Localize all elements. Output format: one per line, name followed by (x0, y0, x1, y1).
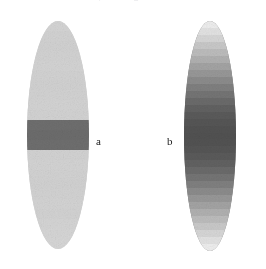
intensity-band (27, 21, 89, 31)
intensity-band (184, 77, 236, 84)
figure-root: of the modulated beam, showing the trans… (0, 0, 266, 269)
intensity-band (27, 219, 89, 229)
intensity-band (27, 71, 89, 81)
intensity-band (184, 98, 236, 105)
intensity-band (27, 120, 89, 130)
intensity-band (184, 35, 236, 42)
intensity-band (27, 199, 89, 209)
intensity-band (27, 41, 89, 51)
intensity-band (184, 202, 236, 209)
intensity-band (184, 49, 236, 56)
intensity-band (27, 31, 89, 41)
intensity-band (27, 80, 89, 90)
ellipse-b (184, 21, 236, 251)
intensity-band (27, 110, 89, 120)
ellipse-a (27, 21, 89, 249)
intensity-band (27, 51, 89, 61)
panel-a-label: a (96, 136, 101, 147)
intensity-band (27, 229, 89, 239)
intensity-band (184, 133, 236, 140)
intensity-band (184, 188, 236, 195)
panel-b-label: b (167, 136, 173, 147)
intensity-band (184, 223, 236, 230)
clipped-caption-strip: of the modulated beam, showing the trans… (0, 0, 266, 11)
intensity-band (184, 63, 236, 70)
intensity-band (184, 216, 236, 223)
intensity-band (184, 244, 236, 251)
intensity-band (184, 21, 236, 28)
intensity-band (27, 239, 89, 249)
intensity-band (184, 209, 236, 216)
intensity-band (184, 195, 236, 202)
intensity-band (184, 153, 236, 160)
intensity-band (184, 112, 236, 119)
intensity-band (27, 140, 89, 150)
intensity-band (184, 42, 236, 49)
intensity-band (184, 174, 236, 181)
intensity-band (184, 28, 236, 35)
clipped-caption-text: of the modulated beam, showing the trans… (4, 0, 262, 1)
intensity-band (184, 139, 236, 146)
intensity-band (27, 189, 89, 199)
ellipse-b-band-stack (184, 21, 236, 251)
intensity-band (184, 181, 236, 188)
intensity-band (27, 209, 89, 219)
intensity-band (184, 105, 236, 112)
intensity-band (184, 237, 236, 244)
intensity-band (27, 170, 89, 180)
intensity-band (27, 130, 89, 140)
intensity-band (27, 61, 89, 71)
intensity-band (27, 180, 89, 190)
intensity-band (27, 90, 89, 100)
intensity-band (184, 56, 236, 63)
ellipse-a-band-stack (27, 21, 89, 249)
intensity-band (184, 119, 236, 126)
intensity-band (184, 230, 236, 237)
intensity-band (184, 70, 236, 77)
intensity-band (184, 84, 236, 91)
intensity-band (27, 160, 89, 170)
intensity-band (184, 126, 236, 133)
intensity-band (184, 160, 236, 167)
intensity-band (184, 146, 236, 153)
intensity-band (27, 100, 89, 110)
intensity-band (184, 167, 236, 174)
intensity-band (184, 91, 236, 98)
intensity-band (27, 150, 89, 160)
